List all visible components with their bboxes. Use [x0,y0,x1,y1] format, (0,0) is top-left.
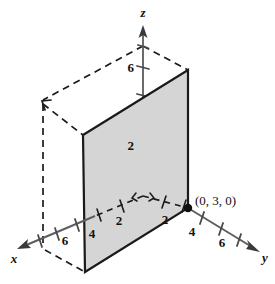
box-edge-bottom-diagonal [45,250,85,272]
z-tick-label-6: 6 [128,60,135,75]
coordinate-system-diagram: z x y 6 2 2 2 4 4 6 6 (0, 3, 0) [0,0,275,284]
y-axis-label: y [260,250,268,265]
point-marker-0-3-0 [184,204,192,212]
y-tick-label-4: 4 [189,224,196,239]
y-tick-label-6: 6 [219,235,226,250]
z-axis-label: z [139,5,146,20]
x-tick-label-6: 6 [62,233,69,248]
x-tick-label-4: 4 [89,226,96,241]
figure-container: z x y 6 2 2 2 4 4 6 6 (0, 3, 0) [0,0,275,284]
shaded-plane-y-equals-3 [83,70,188,272]
plane-polygon [83,70,188,272]
box-edge-left-diagonal [43,104,83,135]
x-axis-outer-ticks [38,219,79,247]
y-tick-label-2: 2 [162,212,169,227]
x-tick-label-2: 2 [116,213,123,228]
box-edge-top-right [143,46,188,70]
z-tick-label-2: 2 [128,138,135,153]
y-axis-arrowhead [246,240,260,252]
x-axis-label: x [10,251,18,266]
x-outer-tick-8 [55,228,59,240]
point-dot [184,204,192,212]
point-coordinate-label: (0, 3, 0) [195,193,236,208]
x-outer-tick-10 [38,235,42,247]
